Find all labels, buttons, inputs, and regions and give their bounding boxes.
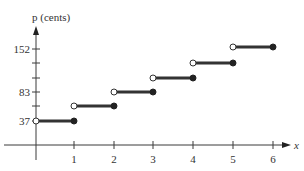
closed-point-icon — [111, 103, 117, 109]
x-tick-label-1: 1 — [71, 153, 77, 165]
open-point-icon — [71, 103, 77, 109]
x-tick-label-5: 5 — [230, 153, 236, 165]
closed-point-icon — [71, 118, 77, 124]
open-point-icon — [190, 60, 196, 66]
open-point-icon — [230, 44, 236, 50]
closed-point-icon — [230, 60, 236, 66]
x-tick-label-6: 6 — [270, 153, 276, 165]
open-point-icon — [111, 89, 117, 95]
closed-endpoints — [71, 44, 276, 124]
open-point-icon — [33, 118, 39, 124]
x-tick-label-4: 4 — [190, 153, 196, 165]
closed-point-icon — [270, 44, 276, 50]
step-chart: p (cents) x 152 83 37 1 2 3 4 5 6 — [0, 0, 304, 171]
x-axis-arrow-icon — [282, 142, 291, 148]
closed-point-icon — [150, 89, 156, 95]
step-segments — [36, 47, 273, 121]
y-axis-label: p (cents) — [32, 11, 71, 24]
y-tick-label-152: 152 — [14, 43, 31, 55]
y-tick-label-83: 83 — [19, 86, 31, 98]
x-tick-label-3: 3 — [150, 153, 156, 165]
x-tick-label-2: 2 — [111, 153, 117, 165]
closed-point-icon — [190, 75, 196, 81]
y-tick-label-37: 37 — [19, 115, 31, 127]
open-point-icon — [150, 75, 156, 81]
y-axis-arrow-icon — [33, 26, 39, 35]
x-axis-label: x — [293, 139, 299, 151]
open-endpoints — [33, 44, 236, 124]
